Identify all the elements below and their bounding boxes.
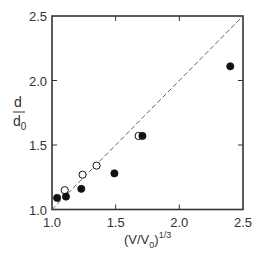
y-tick-label: 2.0 [29, 74, 47, 89]
x-tick-labels: 1.01.52.02.5 [43, 215, 252, 230]
y-tick-label: 1.0 [29, 203, 47, 218]
y-tick-label: 2.5 [29, 9, 47, 24]
open-data-point [93, 162, 100, 169]
y-axis-label-numerator: d [14, 94, 22, 110]
filled-data-point [78, 185, 85, 192]
filled-data-point [139, 132, 146, 139]
filled-data-point [227, 63, 234, 70]
x-tick-label: 2.0 [170, 215, 188, 230]
filled-data-point [62, 193, 69, 200]
y-axis-label-denominator: d0 [13, 113, 27, 132]
filled-data-point [53, 194, 60, 201]
open-data-point [61, 187, 68, 194]
scatter-chart: 1.01.52.02.5 1.01.52.02.5 d d0 (V/V0)1/3 [0, 0, 264, 263]
x-axis-label: (V/V0)1/3 [124, 230, 171, 250]
filled-data-point [111, 170, 118, 177]
reference-line [52, 16, 243, 210]
y-tick-label: 1.5 [29, 138, 47, 153]
open-data-point [79, 171, 86, 178]
y-tick-labels: 1.01.52.02.5 [29, 9, 47, 218]
x-tick-label: 2.5 [234, 215, 252, 230]
x-tick-label: 1.5 [107, 215, 125, 230]
